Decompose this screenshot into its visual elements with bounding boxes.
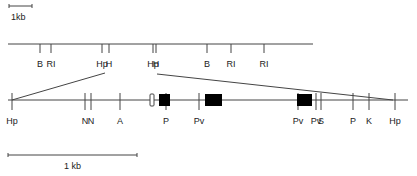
exon-open-box bbox=[150, 94, 154, 106]
expansion-line bbox=[157, 74, 393, 100]
exon-filled-box bbox=[205, 94, 222, 106]
top-site-label: RI bbox=[260, 59, 269, 69]
top-site-label: B bbox=[37, 59, 43, 69]
bottom-site-label: Pv bbox=[293, 116, 304, 126]
bottom-site-label: S bbox=[318, 116, 324, 126]
bottom-site-label: P bbox=[163, 116, 169, 126]
top-site-label: RI bbox=[47, 59, 56, 69]
bottom-site-label: N bbox=[88, 116, 95, 126]
top-site-label: B bbox=[204, 59, 210, 69]
bottom-site-label: Pv bbox=[194, 116, 205, 126]
exon-filled-box bbox=[159, 94, 170, 106]
bottom-site-label: Hp bbox=[6, 116, 18, 126]
top-scale-label: 1kb bbox=[11, 12, 26, 22]
bottom-site-label: K bbox=[366, 116, 372, 126]
bottom-site-label: A bbox=[117, 116, 123, 126]
top-site-label: H bbox=[153, 59, 160, 69]
bottom-site-label: Hp bbox=[389, 116, 401, 126]
top-site-label: RI bbox=[227, 59, 236, 69]
top-site-label: H bbox=[106, 59, 113, 69]
bottom-scale-label: 1 kb bbox=[64, 161, 81, 171]
bottom-site-label: P bbox=[350, 116, 356, 126]
restriction-map-diagram: 1kbBRIHpHHpHBRIRIHpNNAPPvPvPvSPKHp1 kb bbox=[0, 0, 417, 176]
exon-filled-box bbox=[297, 94, 312, 106]
